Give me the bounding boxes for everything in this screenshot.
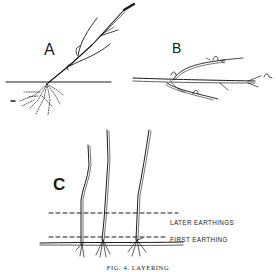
panel-a-roots xyxy=(20,84,63,115)
panel-a-label: A xyxy=(44,41,55,59)
later-earthings-label: LATER EARTHINGS xyxy=(170,219,234,226)
panel-a-drawing xyxy=(6,4,134,83)
panel-b-drawing xyxy=(133,56,272,100)
panel-b-label: B xyxy=(172,40,181,56)
layering-illustration xyxy=(0,0,276,272)
first-earthing-label: FIRST EARTHING xyxy=(170,236,228,243)
figure-caption: FIG. 4. LAYERING xyxy=(0,264,276,271)
panel-c-label: C xyxy=(53,175,65,195)
